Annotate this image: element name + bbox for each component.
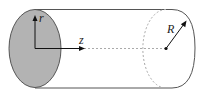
r-label: r [39, 11, 44, 25]
cylinder-diagram: r z R [0, 0, 204, 97]
radius-arrowhead-icon [181, 21, 187, 28]
radius-label: R [166, 22, 175, 36]
z-label: z [78, 33, 84, 47]
hidden-cross-section [143, 10, 166, 89]
